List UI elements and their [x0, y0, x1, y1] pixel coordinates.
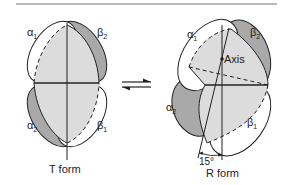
- rotation-angle-label: 15°: [199, 156, 214, 167]
- r-form-diagram: α1 β2 α2 β1 Axis 15° R form: [164, 8, 283, 179]
- hemoglobin-t-r-diagram: α1 β2 α2 β1 T form: [0, 0, 290, 185]
- t-beta2-label: β2: [97, 26, 107, 40]
- t-alpha1-label: α1: [27, 26, 37, 40]
- t-form-diagram: α1 β2 α2 β1 T form: [17, 13, 117, 175]
- equilibrium-arrows-icon: [122, 79, 151, 91]
- r-beta2-label: β2: [250, 26, 260, 40]
- r-alpha1-label: α1: [187, 28, 197, 42]
- axis-label: Axis: [224, 53, 245, 65]
- t-beta1-label: β1: [97, 119, 107, 133]
- t-form-caption: T form: [49, 163, 81, 175]
- r-form-caption: R form: [206, 167, 239, 179]
